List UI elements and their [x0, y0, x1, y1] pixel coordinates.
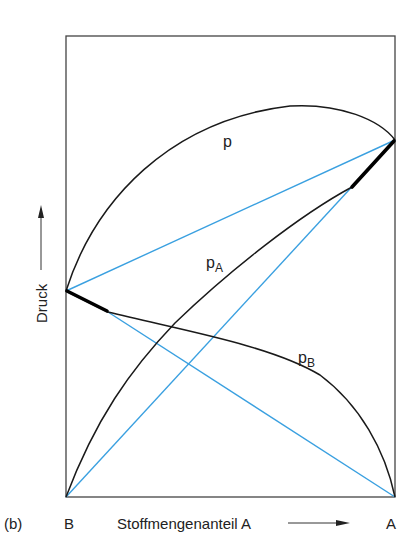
partial-pressure-b-curve — [66, 291, 395, 497]
label-pb: pB — [298, 349, 315, 370]
label-pa-sub: A — [215, 261, 223, 275]
thick-segment-a — [352, 141, 394, 187]
coexistence-segments — [67, 141, 394, 311]
x-axis-label: Stoffmengenanteil A — [117, 515, 251, 532]
label-pa: pA — [206, 254, 223, 275]
y-axis-arrow-icon — [38, 205, 44, 218]
x-right-label: A — [386, 515, 396, 532]
label-pa-main: p — [206, 254, 215, 271]
y-axis-title: Druck — [33, 205, 50, 323]
panel-label: (b) — [4, 515, 22, 532]
label-p: p — [223, 133, 232, 150]
x-axis-arrow — [288, 520, 350, 526]
x-axis-arrow-icon — [336, 520, 350, 526]
label-pb-sub: B — [307, 356, 315, 370]
plot-frame — [66, 36, 395, 497]
y-axis-label: Druck — [33, 283, 50, 323]
thick-segment-b — [67, 291, 107, 311]
pressure-curves — [66, 106, 395, 497]
x-left-label: B — [64, 515, 74, 532]
tie-line-rising — [66, 140, 395, 497]
tie-lines — [66, 140, 395, 497]
vapor-pressure-diagram: p pA pB Druck (b) B Stoffmengenanteil A … — [0, 0, 416, 553]
diagram-canvas: p pA pB Druck (b) B Stoffmengenanteil A … — [0, 0, 416, 553]
label-pb-main: p — [298, 349, 307, 366]
tie-line-upper — [66, 140, 395, 291]
